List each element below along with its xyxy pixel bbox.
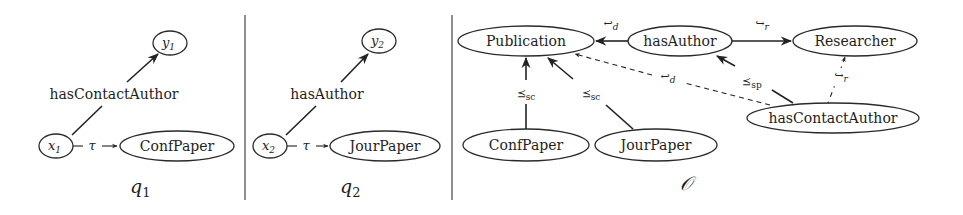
panel-q2: y2 x2 JourPaper hasAuthor τ q2: [253, 29, 440, 200]
edge-label-domain-1: ↩d: [604, 17, 619, 32]
edge-label-type-q2: τ: [302, 138, 310, 153]
edge-jourpaper-subclass-segment: [606, 105, 633, 129]
node-hasauthor: hasAuthor: [628, 26, 732, 56]
node-researcher-label: Researcher: [814, 33, 895, 49]
panel-title-ontology: 𝒪: [680, 172, 697, 194]
edge-label-subclass-1: ⪯sc: [517, 87, 536, 102]
node-hasauthor-label: hasAuthor: [643, 33, 717, 49]
edge-range-researcher-arrow: [841, 57, 845, 68]
edge-hascontactauthor-subproperty-segment: [772, 90, 793, 103]
node-confpaper-q1: ConfPaper: [120, 131, 234, 161]
node-confpaper: ConfPaper: [463, 129, 589, 161]
node-confpaper-label: ConfPaper: [489, 137, 564, 153]
node-hascontactauthor: hasContactAuthor: [747, 103, 919, 133]
edge-label-range-2: ↪r: [834, 69, 848, 84]
node-researcher: Researcher: [793, 26, 917, 56]
edge-hascontactauthor-range-segment: [828, 82, 836, 103]
panel-title-q2: q2: [340, 175, 360, 200]
edge-label-subproperty: ⪯sp: [742, 75, 762, 90]
panel-ontology: Publication hasAuthor Researcher hasCont…: [458, 17, 919, 194]
edge-x2-hasauthor-segment: [286, 106, 316, 135]
node-hascontactauthor-label: hasContactAuthor: [768, 110, 897, 126]
panel-q1: y1 x1 ConfPaper hasContactAuthor τ q1: [39, 31, 234, 200]
node-x1: x1: [39, 134, 73, 158]
edge-label-domain-2: ↩d: [661, 70, 676, 85]
edge-label-subclass-2: ⪯sc: [582, 87, 601, 102]
edge-label-range-1: ↪r: [755, 17, 769, 32]
edge-domain-publication-arrow: [575, 54, 652, 75]
edge-hascontactauthor-y1-arrow: [127, 54, 158, 82]
node-confpaper-q1-label: ConfPaper: [140, 138, 215, 154]
node-publication: Publication: [458, 26, 594, 56]
panel-title-q1: q1: [130, 175, 150, 200]
diagram-canvas: y1 x1 ConfPaper hasContactAuthor τ q1 y2: [0, 0, 963, 215]
node-jourpaper-q2-label: JourPaper: [348, 138, 421, 154]
edge-label-hascontactauthor-q1: hasContactAuthor: [49, 86, 178, 102]
edge-hasauthor-y2-arrow: [341, 54, 368, 82]
node-y1: y1: [153, 31, 187, 55]
node-jourpaper-label: JourPaper: [619, 137, 692, 153]
node-jourpaper: JourPaper: [595, 129, 717, 161]
node-publication-label: Publication: [486, 33, 566, 49]
node-x2: x2: [253, 134, 287, 158]
node-jourpaper-q2: JourPaper: [330, 131, 440, 161]
node-y2: y2: [362, 29, 396, 53]
edge-x1-hascontactauthor-segment: [72, 106, 102, 135]
edge-subproperty-hasauthor-arrow: [717, 56, 735, 66]
edge-label-type-q1: τ: [88, 138, 96, 153]
edge-label-hasauthor-q2: hasAuthor: [290, 86, 364, 102]
edge-subclass-publication-arrow-2: [548, 58, 573, 79]
